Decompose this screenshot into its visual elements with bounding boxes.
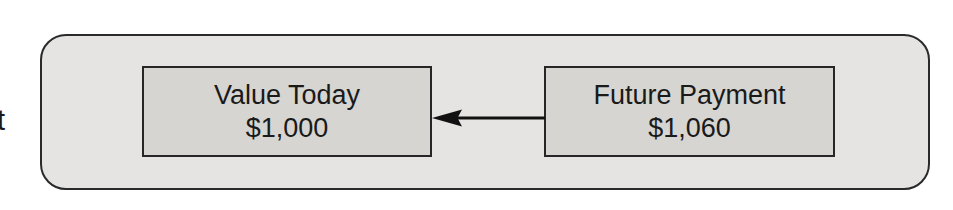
discount-flow-arrow — [431, 107, 545, 129]
future-payment-amount: $1,060 — [648, 112, 731, 145]
value-today-box: Value Today $1,000 — [142, 66, 432, 157]
cropped-margin-text: t — [0, 106, 5, 135]
future-payment-box: Future Payment $1,060 — [544, 66, 835, 157]
arrowhead-left-icon — [432, 110, 462, 127]
figure-canvas: t Value Today $1,000 Future Payment $1,0… — [0, 0, 953, 210]
future-payment-label: Future Payment — [593, 79, 785, 112]
value-today-label: Value Today — [214, 79, 360, 112]
value-today-amount: $1,000 — [246, 112, 329, 145]
